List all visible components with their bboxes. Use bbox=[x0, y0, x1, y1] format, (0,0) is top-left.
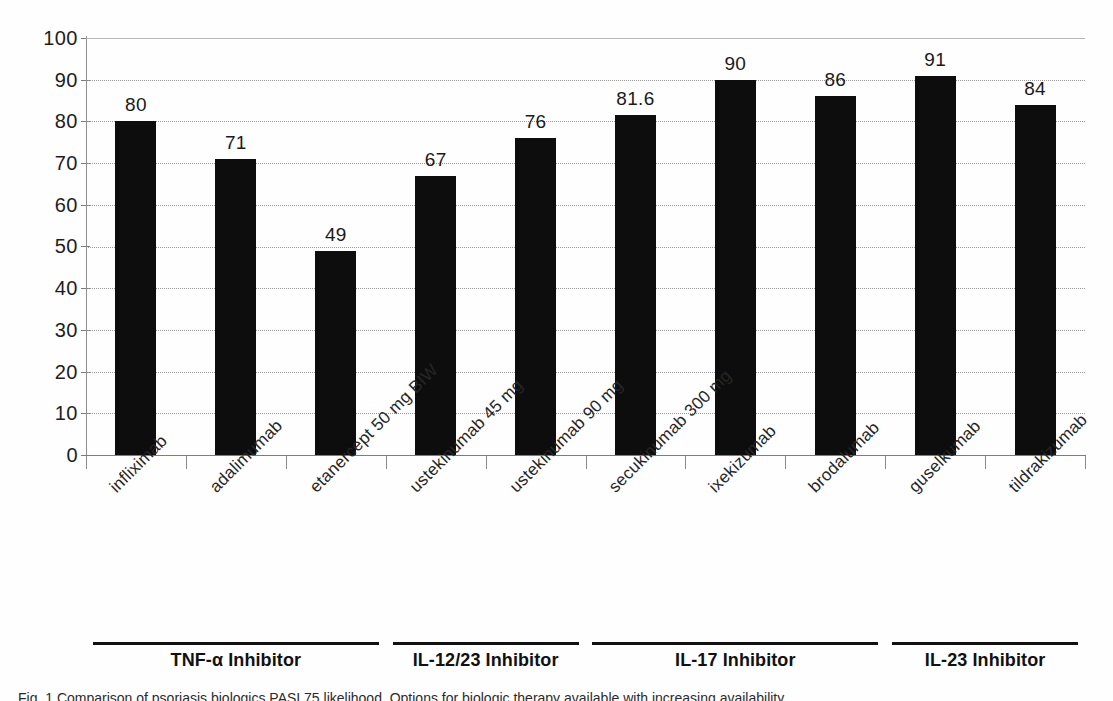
group-label: IL-23 Inhibitor bbox=[892, 650, 1078, 671]
bar-value-label: 84 bbox=[1000, 78, 1070, 100]
y-tick-label: 40 bbox=[18, 277, 78, 300]
bar-value-label: 86 bbox=[800, 69, 870, 91]
bar-value-label: 81.6 bbox=[600, 88, 670, 110]
y-tick-label: 50 bbox=[18, 235, 78, 258]
group-underline bbox=[93, 642, 379, 645]
bar bbox=[715, 80, 756, 455]
bar-value-label: 91 bbox=[900, 49, 970, 71]
bar-value-label: 80 bbox=[101, 94, 171, 116]
bar bbox=[215, 159, 256, 455]
y-tick-label: 30 bbox=[18, 319, 78, 342]
y-tick-label: 10 bbox=[18, 402, 78, 425]
group-label: TNF-α Inhibitor bbox=[93, 650, 379, 671]
x-tick-mark bbox=[885, 456, 886, 469]
x-tick-mark bbox=[486, 456, 487, 469]
bar bbox=[615, 115, 656, 455]
bar bbox=[415, 176, 456, 455]
group-label: IL-17 Inhibitor bbox=[592, 650, 878, 671]
bar bbox=[1015, 105, 1056, 455]
plot-area bbox=[86, 38, 1085, 455]
bar bbox=[515, 138, 556, 455]
x-tick-mark bbox=[86, 456, 87, 469]
x-tick-mark bbox=[785, 456, 786, 469]
x-tick-mark bbox=[586, 456, 587, 469]
y-tick-label: 80 bbox=[18, 110, 78, 133]
bar-value-label: 67 bbox=[401, 149, 471, 171]
bar-value-label: 71 bbox=[201, 132, 271, 154]
x-tick-mark bbox=[985, 456, 986, 469]
x-tick-mark bbox=[685, 456, 686, 469]
group-underline bbox=[592, 642, 878, 645]
bar-value-label: 49 bbox=[301, 224, 371, 246]
x-tick-mark bbox=[286, 456, 287, 469]
group-underline bbox=[892, 642, 1078, 645]
x-tick-mark bbox=[386, 456, 387, 469]
bar bbox=[115, 121, 156, 455]
bar bbox=[815, 96, 856, 455]
y-tick-label: 70 bbox=[18, 152, 78, 175]
bar-value-label: 90 bbox=[700, 53, 770, 75]
group-underline bbox=[393, 642, 579, 645]
group-label: IL-12/23 Inhibitor bbox=[393, 650, 579, 671]
bar bbox=[315, 251, 356, 455]
y-tick-label: 100 bbox=[18, 27, 78, 50]
x-tick-mark bbox=[186, 456, 187, 469]
bar bbox=[915, 76, 956, 455]
y-tick-label: 60 bbox=[18, 194, 78, 217]
figure-bar-chart: 100 90 80 70 60 50 40 30 20 10 0 bbox=[0, 0, 1113, 701]
bar-value-label: 76 bbox=[501, 111, 571, 133]
y-tick-label: 20 bbox=[18, 361, 78, 384]
gridline-100 bbox=[86, 38, 1085, 39]
y-tick-label: 0 bbox=[18, 444, 78, 467]
y-tick-label: 90 bbox=[18, 69, 78, 92]
x-tick-mark bbox=[1085, 456, 1086, 469]
figure-caption: Fig. 1 Comparison of psoriasis biologics… bbox=[18, 690, 1103, 701]
